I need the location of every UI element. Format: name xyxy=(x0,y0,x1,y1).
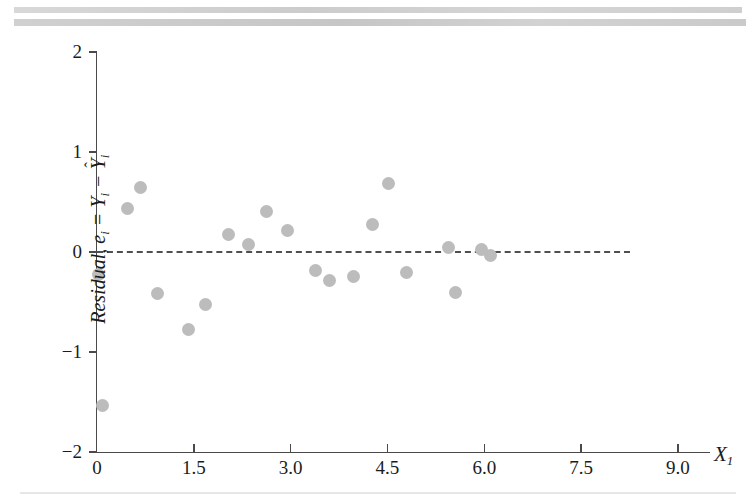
data-point xyxy=(442,241,455,254)
data-point xyxy=(323,274,336,287)
x-tick-mark xyxy=(677,444,678,452)
y-tick-label: 2 xyxy=(42,42,82,61)
data-point xyxy=(96,399,109,412)
data-point xyxy=(134,181,147,194)
y-axis-title-equals: = xyxy=(87,213,109,227)
x-axis-title-sub: 1 xyxy=(727,453,734,468)
x-tick-mark xyxy=(387,444,388,452)
residual-plot-figure: −2−1012 01.53.04.56.07.59.0 Residual, ei… xyxy=(0,0,754,503)
data-point xyxy=(182,323,195,336)
hat-accent-icon: ˆ xyxy=(82,160,99,169)
x-tick-label: 7.5 xyxy=(551,458,611,477)
x-tick-mark xyxy=(290,444,291,452)
y-axis-title-e-sub: i xyxy=(97,231,112,235)
data-point xyxy=(309,264,322,277)
x-tick-label: 6.0 xyxy=(454,458,514,477)
plot-area: −2−1012 01.53.04.56.07.59.0 Residual, ei… xyxy=(0,0,754,503)
data-point xyxy=(121,202,134,215)
data-point xyxy=(151,287,164,300)
x-tick-mark xyxy=(580,444,581,452)
x-tick-label: 3.0 xyxy=(261,458,321,477)
x-axis-title-letter: X xyxy=(714,442,727,466)
y-axis-title: Residual, ei = Yi − ˆYi xyxy=(87,89,113,389)
data-point xyxy=(449,286,462,299)
data-point xyxy=(242,238,255,251)
x-tick-label: 1.5 xyxy=(164,458,224,477)
y-tick-label: 0 xyxy=(42,242,82,261)
zero-reference-line xyxy=(97,251,630,253)
y-axis-title-word: Residual, xyxy=(87,249,109,324)
y-tick-mark xyxy=(89,51,97,52)
data-point xyxy=(222,228,235,241)
x-tick-mark xyxy=(484,444,485,452)
data-point xyxy=(400,266,413,279)
data-point xyxy=(382,177,395,190)
y-axis-title-yhat-group: ˆY xyxy=(87,158,110,169)
y-axis-title-e: e xyxy=(87,235,109,244)
data-point xyxy=(260,205,273,218)
data-point xyxy=(199,298,212,311)
data-point xyxy=(366,218,379,231)
x-tick-label: 0 xyxy=(67,458,127,477)
x-axis-title: X1 xyxy=(714,442,733,469)
y-tick-label: −1 xyxy=(42,342,82,361)
x-axis-line xyxy=(96,452,710,453)
data-point xyxy=(347,270,360,283)
y-tick-mark xyxy=(89,451,97,452)
x-tick-label: 9.0 xyxy=(648,458,708,477)
data-point xyxy=(484,249,497,262)
x-tick-label: 4.5 xyxy=(357,458,417,477)
y-axis-title-minus: − xyxy=(87,174,109,188)
x-tick-mark xyxy=(193,444,194,452)
y-axis-title-y-sub: i xyxy=(97,193,112,197)
y-tick-label: 1 xyxy=(42,142,82,161)
data-point xyxy=(281,224,294,237)
y-axis-title-y: Y xyxy=(87,197,109,208)
